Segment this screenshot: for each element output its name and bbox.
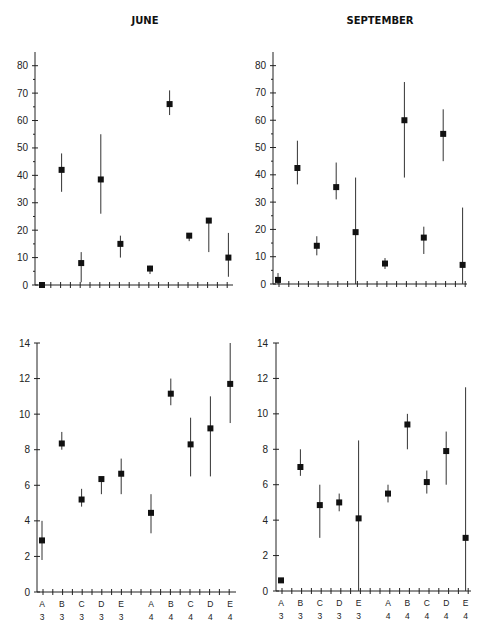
data-point-B3 (59, 440, 65, 446)
data-point-A3 (275, 277, 281, 283)
y-tick-label: 70 (17, 88, 29, 99)
data-point-E3 (118, 471, 124, 477)
x-category-letter: C (317, 598, 323, 608)
x-category-letter: E (118, 599, 124, 609)
x-category-number: 3 (79, 612, 84, 622)
y-tick-label: 50 (17, 142, 29, 153)
x-category-letter: B (59, 599, 65, 609)
data-point-B3 (294, 165, 300, 171)
x-category-letter: A (39, 599, 45, 609)
y-tick-label: 12 (19, 373, 31, 384)
y-tick-label: 40 (255, 169, 267, 180)
x-category-number: 3 (119, 612, 124, 622)
panel-title-june: JUNE (130, 15, 158, 26)
data-point-A3 (39, 537, 45, 543)
data-point-C4 (421, 235, 427, 241)
data-point-E3 (353, 229, 359, 235)
y-tick-label: 6 (262, 479, 268, 490)
x-category-number: 4 (424, 611, 429, 621)
y-tick-label: 4 (24, 515, 30, 526)
data-point-B4 (168, 391, 174, 397)
x-category-number: 3 (298, 611, 303, 621)
y-tick-label: 6 (24, 480, 30, 491)
x-category-letter: A (148, 599, 154, 609)
data-point-D4 (443, 448, 449, 454)
x-category-number: 3 (337, 611, 342, 621)
x-category-letter: A (278, 598, 284, 608)
x-category-number: 4 (228, 612, 233, 622)
data-point-B3 (297, 464, 303, 470)
y-tick-label: 0 (24, 587, 30, 598)
data-point-C4 (188, 441, 194, 447)
y-tick-label: 80 (255, 60, 267, 71)
data-point-C4 (186, 233, 192, 239)
x-category-number: 4 (208, 612, 213, 622)
y-tick-label: 30 (255, 197, 267, 208)
x-category-letter: D (98, 599, 104, 609)
data-point-C4 (424, 479, 430, 485)
x-category-letter: C (79, 599, 85, 609)
y-tick-label: 80 (17, 60, 29, 71)
data-point-B4 (404, 421, 410, 427)
data-point-E4 (460, 262, 466, 268)
y-tick-label: 0 (260, 279, 266, 290)
y-tick-label: 50 (255, 142, 267, 153)
x-category-number: 3 (317, 611, 322, 621)
x-category-letter: C (188, 599, 194, 609)
figure-canvas: JUNE SEPTEMBER 0102030405060708001020304… (0, 0, 487, 639)
x-category-number: 4 (405, 611, 410, 621)
data-point-C3 (317, 502, 323, 508)
data-point-E4 (225, 255, 231, 261)
x-category-number: 3 (356, 611, 361, 621)
y-tick-label: 14 (257, 338, 269, 349)
panel-title-september: SEPTEMBER (346, 15, 413, 26)
data-point-D3 (336, 499, 342, 505)
x-category-number: 4 (386, 611, 391, 621)
y-tick-label: 10 (257, 408, 269, 419)
data-point-D3 (333, 184, 339, 190)
data-point-D4 (440, 131, 446, 137)
x-category-letter: D (336, 598, 342, 608)
data-point-A3 (278, 577, 284, 583)
data-point-B4 (401, 117, 407, 123)
x-category-letter: D (207, 599, 213, 609)
x-category-number: 3 (40, 612, 45, 622)
y-tick-label: 70 (255, 87, 267, 98)
x-category-letter: A (385, 598, 391, 608)
y-tick-label: 0 (262, 586, 268, 597)
data-point-A4 (147, 266, 153, 272)
data-point-C3 (79, 497, 85, 503)
data-point-E4 (227, 381, 233, 387)
y-tick-label: 10 (17, 252, 29, 263)
x-category-number: 4 (463, 611, 468, 621)
data-point-C3 (314, 243, 320, 249)
y-tick-label: 10 (19, 409, 31, 420)
data-point-D3 (98, 476, 104, 482)
plot-panel-top-left: 01020304050607080 (17, 52, 233, 291)
y-tick-label: 10 (255, 251, 267, 262)
data-point-B4 (167, 101, 173, 107)
y-tick-label: 30 (17, 197, 29, 208)
y-tick-label: 20 (255, 224, 267, 235)
x-category-number: 4 (444, 611, 449, 621)
data-point-E3 (117, 241, 123, 247)
plot-panel-bottom-right: 02468101214A3B3C3D3E3A4B4C4D4E4 (257, 338, 471, 622)
y-tick-label: 60 (17, 115, 29, 126)
x-category-letter: D (443, 598, 449, 608)
y-tick-label: 8 (262, 444, 268, 455)
x-category-letter: E (463, 598, 469, 608)
x-category-letter: B (298, 598, 304, 608)
x-category-letter: C (424, 598, 430, 608)
data-point-D4 (207, 425, 213, 431)
x-category-number: 3 (59, 612, 64, 622)
data-point-E4 (463, 535, 469, 541)
data-point-A3 (39, 282, 45, 288)
y-tick-label: 60 (255, 115, 267, 126)
plot-panel-top-right: 01020304050607080 (255, 52, 467, 290)
data-point-D3 (98, 176, 104, 182)
x-category-number: 4 (168, 612, 173, 622)
data-point-B3 (59, 167, 65, 173)
y-tick-label: 2 (262, 550, 268, 561)
x-category-letter: E (227, 599, 233, 609)
data-point-E3 (356, 515, 362, 521)
